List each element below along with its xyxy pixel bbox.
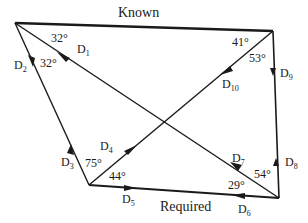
arrow-d5-icon <box>124 185 136 191</box>
angle-label: 32° <box>40 56 57 70</box>
direction-label-d4: D4 <box>100 139 113 155</box>
angle-label: 29° <box>228 178 245 192</box>
required-label: Required <box>160 199 211 214</box>
direction-label-d5: D5 <box>122 192 135 208</box>
direction-label-d8: D8 <box>285 155 298 171</box>
known-label: Known <box>118 5 159 20</box>
direction-label-d7: D7 <box>232 151 245 167</box>
angle-label: 75° <box>85 156 102 170</box>
line-b-c <box>89 31 273 185</box>
angle-label: 53° <box>249 51 266 65</box>
required-line <box>89 185 279 198</box>
arrow-d6-icon <box>232 193 245 199</box>
angle-label: 41° <box>232 35 249 49</box>
angle-label: 32° <box>51 31 68 45</box>
direction-label-d3: D3 <box>61 155 74 171</box>
direction-label-d10: D10 <box>222 77 239 93</box>
direction-label-d1: D1 <box>77 42 90 58</box>
traverse-diagram: Known Required 32° 32° 41° 53° 75° 44° 2… <box>0 0 308 223</box>
direction-label-d9: D9 <box>280 66 293 82</box>
arrow-d10-icon <box>220 66 233 75</box>
direction-label-d2: D2 <box>14 58 27 74</box>
line-b-d <box>273 31 279 198</box>
angle-label: 54° <box>254 167 271 181</box>
arrow-d1-icon <box>57 52 70 62</box>
known-line <box>15 23 273 31</box>
direction-label-d6: D6 <box>238 202 251 218</box>
angle-label: 44° <box>109 169 126 183</box>
